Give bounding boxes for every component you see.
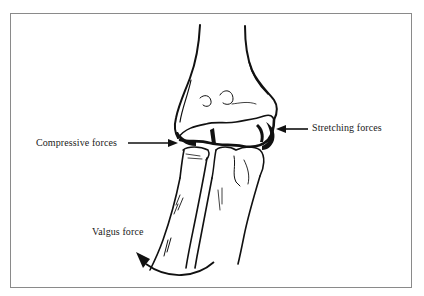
radius: [150, 147, 209, 270]
stretching-forces-label: Stretching forces: [312, 122, 382, 133]
elbow-illustration: [0, 0, 424, 296]
compressive-forces-arrow: [128, 139, 178, 147]
compressive-forces-label: Compressive forces: [36, 137, 117, 148]
valgus-force-label: Valgus force: [92, 226, 143, 237]
valgus-force-arrow: [136, 252, 214, 275]
stretching-forces-arrow: [276, 125, 308, 133]
